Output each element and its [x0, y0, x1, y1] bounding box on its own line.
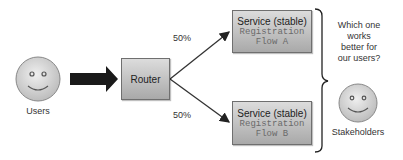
split-top-percent: 50% — [170, 33, 194, 44]
service-b-line2: Flow B — [256, 129, 288, 139]
service-a-line2: Flow A — [256, 37, 288, 47]
question-line: our users? — [332, 53, 386, 64]
router-box: Router — [121, 58, 170, 100]
users-label: Users — [20, 106, 56, 117]
users-smiley-icon — [16, 57, 60, 101]
question-line: Which one — [332, 20, 386, 31]
service-a-title: Service (stable) — [237, 16, 306, 27]
split-bottom-percent: 50% — [170, 110, 194, 121]
stakeholders-smiley-icon — [339, 84, 377, 122]
service-b-line1: Registration — [240, 119, 305, 129]
flow-arrow-icon — [70, 66, 118, 92]
service-b-box: Service (stable) Registration Flow B — [232, 101, 312, 145]
question-line: works — [332, 31, 386, 42]
service-b-title: Service (stable) — [237, 108, 306, 119]
question-text: Which one works better for our users? — [332, 20, 386, 64]
question-line: better for — [332, 42, 386, 53]
service-a-box: Service (stable) Registration Flow A — [232, 10, 312, 53]
service-a-line1: Registration — [240, 27, 305, 37]
stakeholders-label: Stakeholders — [326, 127, 390, 138]
router-label: Router — [130, 74, 160, 85]
